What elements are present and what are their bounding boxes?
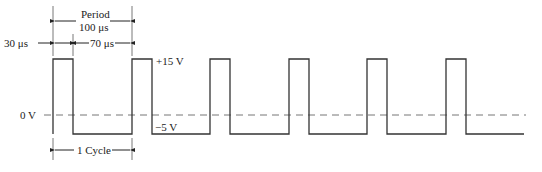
pulse-waveform-diagram: Period 100 μs 30 μs 70 μs +15 V −5 V 0 V…	[0, 0, 542, 172]
period-title-label: Period	[81, 9, 110, 20]
cycle-label: 1 Cycle	[77, 145, 111, 156]
period-value-label: 100 μs	[79, 22, 108, 33]
high-level-label: +15 V	[156, 56, 184, 67]
zero-level-label: 0 V	[20, 110, 36, 121]
low-level-label: −5 V	[155, 122, 177, 133]
off-time-label: 70 μs	[90, 38, 114, 49]
pulse-waveform-trace	[53, 59, 524, 134]
pulse-width-label: 30 μs	[4, 38, 28, 49]
